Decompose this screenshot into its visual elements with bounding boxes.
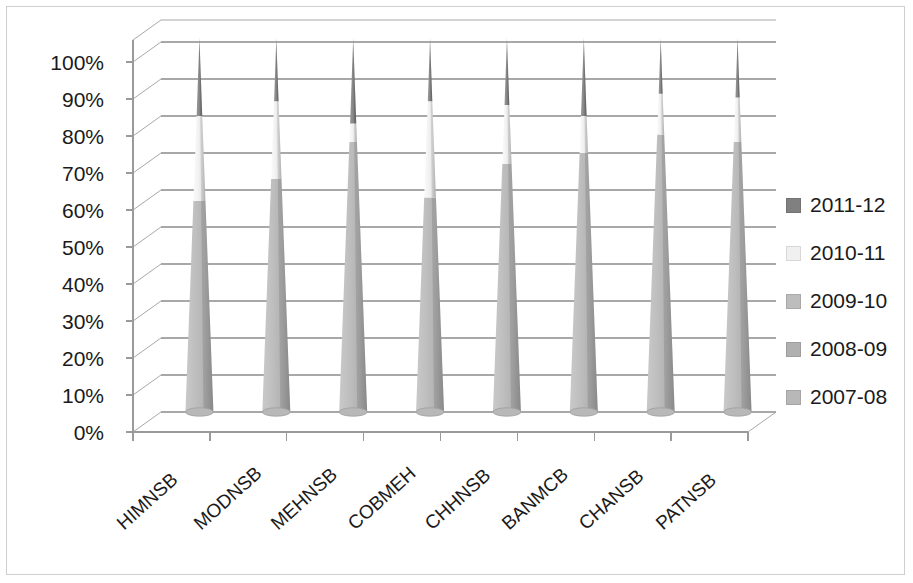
legend-item-label: 2008-09 (810, 337, 887, 361)
x-axis-tick-label: MODNSB (191, 463, 266, 533)
x-axis-tick-label: HIMNSB (114, 469, 182, 533)
chart-container: 0%10%20%30%40%50%60%70%80%90%100% HIMNSB… (0, 0, 913, 583)
x-axis-tick-label: PATNSB (652, 470, 719, 533)
legend-item[interactable]: 2007-08 (786, 373, 904, 421)
x-axis-tick-label: CHANSB (575, 466, 647, 533)
legend-swatch-icon (786, 294, 801, 309)
legend-item-label: 2007-08 (810, 385, 887, 409)
x-axis-tick-label: BANMCB (498, 464, 571, 533)
legend-item[interactable]: 2009-10 (786, 277, 904, 325)
x-axis-tick-label: MEHNSB (267, 464, 340, 533)
legend-item-label: 2009-10 (810, 289, 887, 313)
x-axis: HIMNSBMODNSBMEHNSBCOBMEHCHHNSBBANMCBCHAN… (0, 0, 913, 583)
legend-swatch-icon (786, 198, 801, 213)
x-axis-tick-label: COBMEH (344, 463, 419, 533)
chart-legend: 2011-122010-112009-102008-092007-08 (786, 181, 904, 421)
legend-item-label: 2011-12 (810, 193, 886, 217)
legend-swatch-icon (786, 246, 801, 261)
legend-item[interactable]: 2011-12 (786, 181, 904, 229)
legend-item-label: 2010-11 (810, 241, 886, 265)
legend-swatch-icon (786, 342, 801, 357)
legend-item[interactable]: 2008-09 (786, 325, 904, 373)
legend-item[interactable]: 2010-11 (786, 229, 904, 277)
x-axis-tick-label: CHHNSB (421, 465, 493, 533)
legend-swatch-icon (786, 390, 801, 405)
